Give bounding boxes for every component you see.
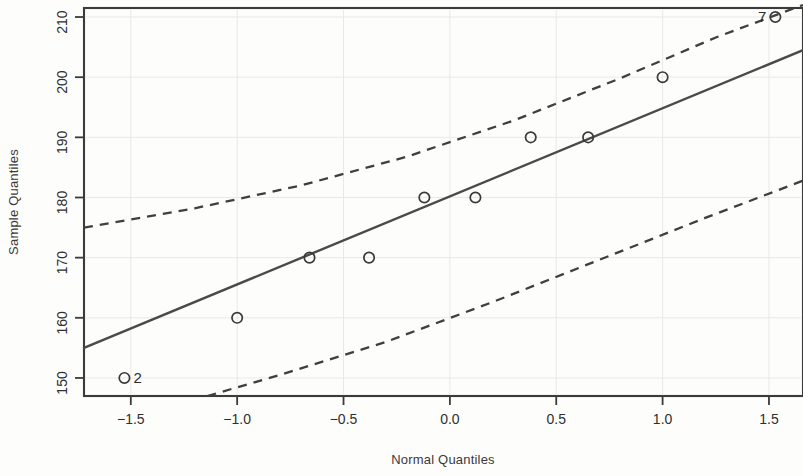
x-axis-ticks: −1.5−1.0−0.50.00.51.01.5 [117,396,779,427]
y-tick-label: 170 [54,251,70,275]
upper-confidence-band [84,5,803,228]
data-point-label: 2 [133,369,141,386]
qq-plot-figure: 27 −1.5−1.0−0.50.00.51.01.5 150160170180… [0,0,803,476]
reference-line [84,50,803,348]
y-axis-ticks: 150160170180190200210 [54,10,84,395]
x-tick-label: −0.5 [330,411,358,427]
y-tick-label: 180 [54,191,70,215]
y-tick-label: 160 [54,311,70,335]
x-axis-title: Normal Quantiles [391,452,495,467]
y-tick-label: 200 [54,70,70,94]
x-tick-label: −1.5 [117,411,145,427]
x-tick-label: 0.0 [440,411,460,427]
y-tick-label: 190 [54,130,70,154]
x-tick-label: −1.0 [223,411,251,427]
y-tick-label: 210 [54,10,70,34]
plot-frame [84,8,803,396]
gridlines [86,10,801,394]
qq-plot-canvas: 27 −1.5−1.0−0.50.00.51.01.5 150160170180… [0,0,803,476]
lower-confidence-band [207,181,803,396]
y-tick-label: 150 [54,371,70,395]
y-axis-title: Sample Quantiles [6,149,21,255]
data-point-label: 7 [758,8,766,25]
x-tick-label: 1.0 [653,411,673,427]
x-tick-label: 1.5 [759,411,779,427]
x-tick-label: 0.5 [547,411,567,427]
